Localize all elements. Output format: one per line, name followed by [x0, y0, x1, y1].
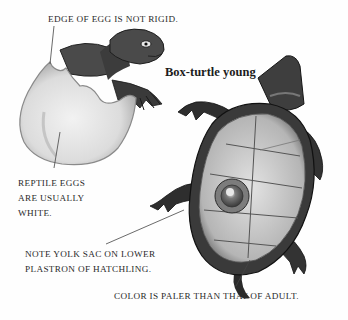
leader-line-yolk-sac: [106, 210, 184, 244]
caption-yolk-sac: NOTE YOLK SAC ON LOWER PLASTRON OF HATCH…: [25, 247, 155, 277]
illustration-title: Box-turtle young: [165, 65, 256, 80]
caption-egg-color-line-1: REPTILE EGGS: [18, 176, 85, 191]
caption-egg-color-line-3: WHITE.: [18, 206, 85, 221]
caption-egg-color-line-2: ARE USUALLY: [18, 191, 85, 206]
caption-yolk-sac-line-2: PLASTRON OF HATCHLING.: [25, 262, 155, 277]
upside-down-turtle-illustration: [150, 56, 323, 299]
caption-egg-edge: EDGE OF EGG IS NOT RIGID.: [48, 12, 178, 27]
caption-color-note: COLOR IS PALER THAN THAT OF ADULT.: [114, 289, 299, 304]
leader-line-egg-edge: [50, 26, 54, 64]
book-page: EDGE OF EGG IS NOT RIGID. Box-turtle you…: [0, 0, 348, 320]
caption-egg-color: REPTILE EGGS ARE USUALLY WHITE.: [18, 176, 85, 221]
yolk-sac: [215, 179, 249, 213]
hatching-egg-illustration: [20, 29, 164, 165]
caption-yolk-sac-line-1: NOTE YOLK SAC ON LOWER: [25, 247, 155, 262]
